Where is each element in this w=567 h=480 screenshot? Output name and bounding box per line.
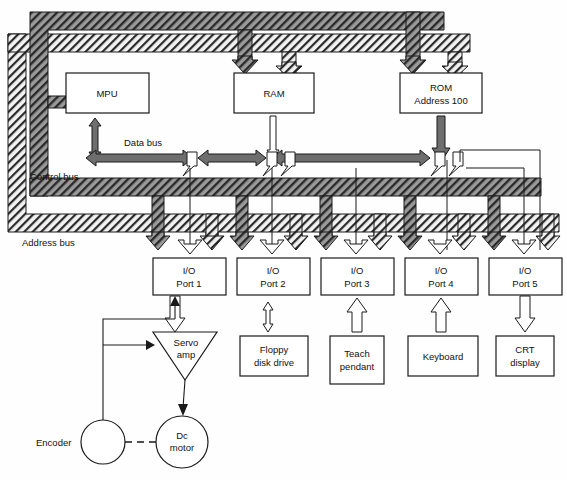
io-port-5-line2: Port 5 xyxy=(512,278,537,289)
io-port-4-line2: Port 4 xyxy=(428,278,453,289)
control-bus-label: Control bus xyxy=(30,171,79,182)
io-ports-group: I/O Port 1 I/O Port 2 I/O Port 3 I/O Por… xyxy=(153,258,562,295)
io-port-2-line1: I/O xyxy=(267,265,280,276)
block-ram-label: RAM xyxy=(263,88,284,99)
block-ram[interactable]: RAM xyxy=(234,73,314,113)
block-mpu-label: MPU xyxy=(96,88,117,99)
block-rom-address-label: Address 100 xyxy=(414,95,467,106)
servo-amp-line2: amp xyxy=(177,349,195,360)
address-bus-label: Address bus xyxy=(22,237,75,248)
keyboard-line1: Keyboard xyxy=(423,351,464,362)
peripheral-crt-display[interactable]: CRT display xyxy=(496,336,554,376)
dc-motor[interactable]: Dc motor xyxy=(156,416,208,468)
dc-motor-line2: motor xyxy=(170,442,194,453)
peripheral-floppy-disk-drive[interactable]: Floppy disk drive xyxy=(240,336,308,376)
io-port-5[interactable]: I/O Port 5 xyxy=(489,258,562,295)
io-port-4-line1: I/O xyxy=(435,265,448,276)
io-port-3[interactable]: I/O Port 3 xyxy=(321,258,394,295)
teach-line1: Teach xyxy=(344,348,369,359)
io-port-3-line2: Port 3 xyxy=(344,278,369,289)
floppy-line2: disk drive xyxy=(254,357,294,368)
encoder[interactable] xyxy=(81,420,125,464)
teach-line2: pendant xyxy=(340,361,375,372)
io-port-1[interactable]: I/O Port 1 xyxy=(153,258,226,295)
io-port-2[interactable]: I/O Port 2 xyxy=(237,258,310,295)
io-port-5-line1: I/O xyxy=(519,265,532,276)
floppy-line1: Floppy xyxy=(260,344,289,355)
servo-amp-line1: Servo xyxy=(174,337,199,348)
io-port-3-line1: I/O xyxy=(351,265,364,276)
io-port-1-line2: Port 1 xyxy=(176,278,201,289)
diagram-canvas: MPU RAM ROM Address 100 I/O Port 1 I/O P… xyxy=(0,0,567,480)
block-rom-label: ROM xyxy=(430,82,452,93)
io-port-4[interactable]: I/O Port 4 xyxy=(405,258,478,295)
dc-motor-line1: Dc xyxy=(176,430,188,441)
processor-blocks-group: MPU RAM ROM Address 100 xyxy=(66,73,482,113)
peripheral-keyboard[interactable]: Keyboard xyxy=(408,336,478,376)
block-mpu[interactable]: MPU xyxy=(66,73,149,113)
encoder-label: Encoder xyxy=(36,437,71,448)
block-diagram-svg: MPU RAM ROM Address 100 I/O Port 1 I/O P… xyxy=(0,0,567,480)
block-rom[interactable]: ROM Address 100 xyxy=(400,73,482,113)
peripheral-teach-pendant[interactable]: Teach pendant xyxy=(330,336,384,384)
crt-line2: display xyxy=(510,357,540,368)
io-port-2-line2: Port 2 xyxy=(260,278,285,289)
crt-line1: CRT xyxy=(515,344,535,355)
io-port-1-line1: I/O xyxy=(183,265,196,276)
data-bus-label: Data bus xyxy=(124,137,162,148)
